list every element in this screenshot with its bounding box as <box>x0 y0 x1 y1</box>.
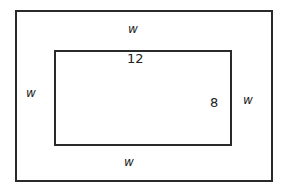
right-border-width-label: w <box>243 94 253 106</box>
inner-height-label: 8 <box>210 96 218 109</box>
inner-width-label: 12 <box>127 52 144 65</box>
bottom-border-width-label: w <box>124 156 134 168</box>
top-border-width-label: w <box>128 23 138 35</box>
left-border-width-label: w <box>26 87 36 99</box>
